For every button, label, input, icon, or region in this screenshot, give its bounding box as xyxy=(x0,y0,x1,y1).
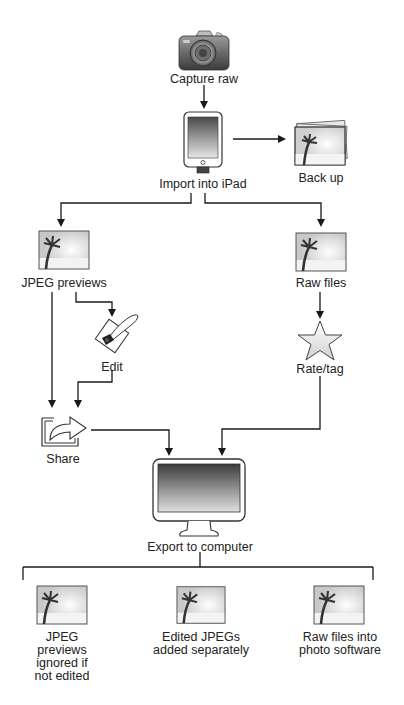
jpeg-previews-photo-icon xyxy=(38,230,90,270)
raw-software-photo-icon xyxy=(313,585,365,625)
label-line: added separately xyxy=(146,644,256,657)
edit-quill-icon xyxy=(92,312,142,356)
share-label: Share xyxy=(40,453,86,466)
edit-label: Edit xyxy=(92,361,132,374)
back-up-label: Back up xyxy=(290,172,352,185)
jpeg-previews-label: JPEG previews xyxy=(10,277,118,290)
label-line: not edited xyxy=(22,670,102,683)
rate-tag-label: Rate/tag xyxy=(289,363,351,376)
camera-icon xyxy=(177,30,231,72)
label-line: photo software xyxy=(290,644,390,657)
export-computer-label: Export to computer xyxy=(136,541,264,554)
raw-software-label: Raw files into photo software xyxy=(290,631,390,657)
ipad-icon xyxy=(183,111,223,174)
import-ipad-label: Import into iPad xyxy=(147,178,259,191)
edited-jpegs-photo-icon xyxy=(176,585,226,625)
workflow-diagram: Capture raw Import into iPad xyxy=(0,0,404,705)
photo-stack-icon xyxy=(292,120,350,168)
raw-files-label: Raw files xyxy=(284,277,358,290)
raw-files-photo-icon xyxy=(295,232,347,272)
monitor-icon xyxy=(152,458,246,538)
jpeg-ignored-photo-icon xyxy=(36,585,88,625)
star-icon xyxy=(296,320,344,362)
edited-jpegs-label: Edited JPEGs added separately xyxy=(146,631,256,657)
share-arrow-icon xyxy=(40,412,90,450)
jpeg-ignored-label: JPEG previews ignored if not edited xyxy=(22,631,102,683)
capture-raw-label: Capture raw xyxy=(154,73,254,86)
